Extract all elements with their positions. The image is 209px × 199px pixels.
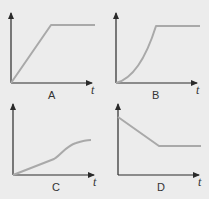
graph-d-t-label: t (198, 175, 202, 189)
graph-d-label: D (157, 181, 165, 193)
graph-b-curve (116, 26, 200, 83)
graph-c-curve (13, 140, 91, 175)
graph-a-t-label: t (91, 83, 95, 97)
graph-d: D t (118, 104, 202, 193)
graph-c-label: C (52, 181, 60, 193)
graph-a-line (11, 25, 95, 83)
graphs-figure: A t B t C t D t (0, 0, 209, 199)
graph-a-label: A (48, 89, 56, 101)
graph-a: A t (11, 13, 95, 101)
graph-c-t-label: t (93, 175, 97, 189)
graph-c: C t (13, 104, 97, 193)
graph-b-label: B (152, 89, 159, 101)
graph-d-line (118, 117, 201, 146)
graph-b-t-label: t (196, 83, 200, 97)
graph-b: B t (116, 13, 200, 101)
